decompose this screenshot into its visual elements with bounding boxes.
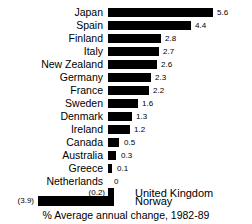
category-label: Germany — [0, 71, 103, 84]
category-label: Spain — [0, 19, 103, 32]
category-label: France — [0, 84, 103, 97]
bar-italy — [108, 47, 159, 56]
value-label: 2.3 — [155, 71, 166, 84]
bar-ireland — [108, 125, 130, 134]
bar-chart: Japan 5.6 Spain 4.4 Finland 2.8 Italy 2.… — [0, 0, 252, 224]
category-label: Japan — [0, 6, 103, 19]
chart-row-italy: Italy 2.7 — [0, 45, 252, 58]
category-label: Norway — [135, 194, 172, 208]
value-label: 5.6 — [217, 6, 228, 19]
chart-row-spain: Spain 4.4 — [0, 19, 252, 32]
chart-row-sweden: Sweden 1.6 — [0, 97, 252, 110]
value-label: 2.8 — [165, 32, 176, 45]
chart-row-greece: Greece 0.1 — [0, 162, 252, 175]
category-label: Denmark — [0, 110, 103, 123]
chart-row-germany: Germany 2.3 — [0, 71, 252, 84]
chart-row-canada: Canada 0.5 — [0, 136, 252, 149]
value-label: 2.6 — [161, 58, 172, 71]
category-label: Italy — [0, 45, 103, 58]
value-label: 1.2 — [134, 123, 145, 136]
bar-new-zealand — [108, 60, 157, 69]
bar-greece — [108, 164, 112, 173]
value-label: 0.5 — [124, 136, 135, 149]
bar-spain — [108, 21, 191, 30]
category-label: New Zealand — [0, 58, 103, 71]
category-label: Canada — [0, 136, 103, 149]
value-label: 1.6 — [142, 97, 153, 110]
chart-row-new-zealand: New Zealand 2.6 — [0, 58, 252, 71]
value-label: 0.3 — [121, 149, 132, 162]
bar-finland — [108, 34, 161, 43]
bar-france — [108, 86, 149, 95]
category-label: Australia — [0, 149, 103, 162]
bar-sweden — [108, 99, 138, 108]
bar-germany — [108, 73, 151, 82]
chart-row-japan: Japan 5.6 — [0, 6, 252, 19]
chart-row-norway: (3.9) Norway — [0, 194, 252, 208]
bar-norway — [38, 196, 114, 206]
value-label: 0.1 — [117, 162, 128, 175]
value-label: 2.2 — [153, 84, 164, 97]
category-label: Ireland — [0, 123, 103, 136]
value-label: (3.9) — [0, 194, 34, 208]
category-label: Sweden — [0, 97, 103, 110]
category-label: Greece — [0, 162, 103, 175]
category-label: Finland — [0, 32, 103, 45]
bar-japan — [108, 8, 213, 17]
bar-canada — [108, 138, 119, 147]
value-label: 1.3 — [136, 110, 147, 123]
chart-row-finland: Finland 2.8 — [0, 32, 252, 45]
value-label: 4.4 — [195, 19, 206, 32]
chart-caption: % Average annual change, 1982-89 — [0, 208, 252, 222]
chart-row-denmark: Denmark 1.3 — [0, 110, 252, 123]
bar-denmark — [108, 112, 132, 121]
chart-row-australia: Australia 0.3 — [0, 149, 252, 162]
bar-australia — [108, 151, 116, 160]
value-label: 2.7 — [163, 45, 174, 58]
chart-row-france: France 2.2 — [0, 84, 252, 97]
chart-row-ireland: Ireland 1.2 — [0, 123, 252, 136]
